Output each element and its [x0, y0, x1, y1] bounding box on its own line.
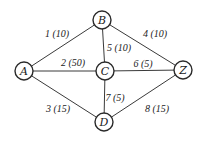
node-z: Z: [174, 61, 192, 79]
edge-label-b-c: 5 (10): [107, 42, 132, 54]
node-label-c: C: [101, 65, 110, 78]
edge-c-z: [105, 70, 183, 71]
node-a: A: [15, 62, 33, 80]
node-label-a: A: [19, 65, 28, 78]
edge-label-a-d: 3 (15): [45, 103, 71, 115]
edge-label-d-z: 8 (15): [145, 103, 170, 115]
node-d: D: [95, 113, 113, 131]
node-label-d: D: [99, 116, 109, 129]
node-b: B: [93, 11, 111, 29]
edge-a-d: [24, 71, 104, 122]
edge-label-c-d: 7 (5): [105, 92, 125, 104]
edge-label-c-z: 6 (5): [133, 58, 153, 70]
graph-diagram: 1 (10)2 (50)3 (15)4 (10)5 (10)6 (5)7 (5)…: [0, 0, 208, 142]
edge-label-b-z: 4 (10): [143, 28, 168, 40]
edge-label-a-c: 2 (50): [61, 57, 86, 69]
node-label-b: B: [97, 14, 106, 27]
node-c: C: [96, 62, 114, 80]
node-label-z: Z: [178, 64, 187, 77]
edge-label-a-b: 1 (10): [45, 28, 70, 40]
